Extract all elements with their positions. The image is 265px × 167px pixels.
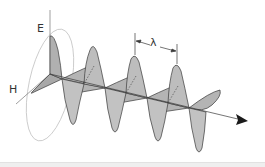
wavelength-label: λ xyxy=(150,36,157,49)
footer-divider xyxy=(0,162,265,167)
h-axis xyxy=(16,74,50,104)
arrow-right-icon xyxy=(236,114,248,125)
e-field-label: E xyxy=(37,22,44,35)
h-field-label: H xyxy=(9,83,17,96)
em-wave-diagram: E H λ xyxy=(0,0,265,167)
